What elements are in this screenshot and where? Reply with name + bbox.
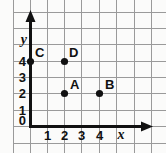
point-marker-b[interactable] [96, 90, 103, 97]
y-tick-4: 4 [19, 54, 27, 69]
x-tick-labels: 1 2 3 4 [44, 128, 104, 143]
coordinate-plane-figure: 4 3 2 1 0 1 2 3 4 y x A B C D [0, 0, 166, 153]
point-label-b: B [105, 77, 114, 92]
point-marker-d[interactable] [61, 58, 68, 65]
x-tick-2: 2 [61, 128, 68, 143]
point-marker-c[interactable] [27, 58, 34, 65]
point-marker-a[interactable] [61, 90, 68, 97]
point-label-a: A [70, 77, 80, 92]
x-tick-3: 3 [78, 128, 85, 143]
coordinate-grid-svg: 4 3 2 1 0 1 2 3 4 y x A B C D [0, 0, 166, 153]
point-label-d: D [69, 45, 78, 60]
y-tick-2: 2 [19, 86, 26, 101]
x-tick-4: 4 [96, 128, 104, 143]
y-tick-labels: 4 3 2 1 [19, 54, 27, 118]
y-tick-3: 3 [19, 70, 26, 85]
x-axis-name: x [117, 127, 125, 142]
x-tick-1: 1 [44, 128, 51, 143]
y-axis-name: y [19, 32, 28, 47]
y-axis-arrow-icon [26, 10, 36, 22]
plotted-points: A B C D [27, 45, 114, 97]
origin-label: 0 [19, 113, 26, 128]
point-label-c: C [35, 45, 45, 60]
